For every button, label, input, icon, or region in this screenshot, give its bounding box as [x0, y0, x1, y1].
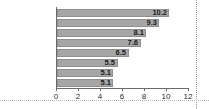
bar-value-label: 5.5 — [105, 58, 115, 68]
x-tick-mark — [188, 88, 189, 91]
bar-value-label: 5.1 — [101, 68, 111, 78]
plot-area: キウイ 10.2 いちご 9.3 バナナ 8.1 かき 7.6 みかん 6.5 … — [0, 0, 209, 109]
bar-value-label: 8.1 — [134, 28, 144, 38]
x-tick-mark — [100, 88, 101, 91]
bar-value-label: 5.1 — [101, 78, 111, 88]
y-axis-line — [56, 7, 57, 88]
bar-value-label: 10.2 — [152, 8, 167, 18]
x-tick-mark — [166, 88, 167, 91]
x-tick-mark — [56, 88, 57, 91]
page-margin-guide-horizontal — [0, 100, 209, 101]
bar — [57, 19, 159, 27]
bar-value-label: 7.6 — [128, 38, 138, 48]
x-tick-mark — [144, 88, 145, 91]
page-margin-guide-vertical — [196, 0, 197, 109]
bar-value-label: 6.5 — [116, 48, 126, 58]
x-tick-mark — [122, 88, 123, 91]
x-tick-mark — [78, 88, 79, 91]
bar-chart: キウイ 10.2 いちご 9.3 バナナ 8.1 かき 7.6 みかん 6.5 … — [0, 0, 209, 109]
bar-value-label: 9.3 — [147, 18, 157, 28]
